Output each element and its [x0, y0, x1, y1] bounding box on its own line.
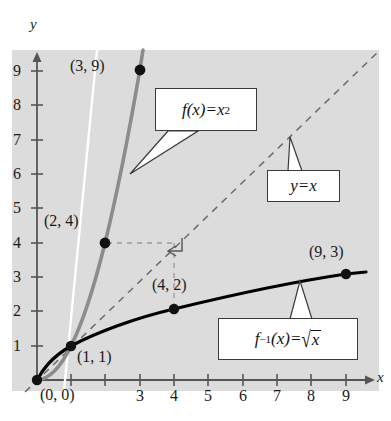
point-1-1: [66, 341, 76, 351]
callout-identity-line: y = x: [267, 170, 340, 202]
point-9-3: [341, 269, 351, 279]
x-tick-9: 9: [339, 387, 353, 405]
callout-identity-rhs: x: [309, 176, 317, 196]
reflection-right-angle-marker: [168, 238, 182, 256]
callout-identity-equals: =: [298, 176, 309, 196]
leader-inverse: [290, 281, 312, 319]
x-tick-6: 6: [236, 387, 250, 405]
x-axis-arrow: [365, 376, 375, 385]
label-2-4: (2, 4): [44, 212, 79, 230]
x-tick-4: 4: [167, 387, 181, 405]
label-1-1: (1, 1): [77, 348, 112, 366]
y-tick-4: 4: [10, 234, 24, 252]
y-tick-1: 1: [10, 337, 24, 355]
figure-graph-inverse-function: y x 1 2 3 4 5 6 7 8 9 3 4 5 6 7 8 9 (3, …: [0, 0, 391, 421]
callout-function-definition: f(x) = x2: [155, 88, 257, 131]
point-0-0: [32, 375, 42, 385]
y-tick-7: 7: [10, 131, 24, 149]
callout-inverse-arg: (x): [271, 329, 290, 349]
callout-identity-lhs: y: [290, 176, 298, 196]
y-tick-2: 2: [10, 302, 24, 320]
radical-sign: √: [301, 327, 310, 354]
y-axis-title: y: [30, 16, 37, 33]
y-tick-6: 6: [10, 165, 24, 183]
y-tick-8: 8: [10, 96, 24, 114]
label-0-0: (0, 0): [40, 386, 75, 404]
callout-function-lhs: f(x): [182, 100, 206, 120]
y-axis-arrow: [33, 52, 42, 62]
label-4-2: (4, 2): [152, 276, 187, 294]
y-tick-3: 3: [10, 268, 24, 286]
callout-inverse-function: f−1(x) = √x: [218, 318, 358, 360]
x-tick-7: 7: [270, 387, 284, 405]
x-tick-8: 8: [304, 387, 318, 405]
callout-function-exponent: 2: [225, 104, 231, 116]
point-2-4: [100, 238, 111, 249]
x-tick-3: 3: [133, 387, 147, 405]
y-tick-5: 5: [10, 199, 24, 217]
callout-inverse-radicand: x: [311, 330, 322, 349]
callout-function-equals: =: [206, 100, 217, 120]
x-tick-5: 5: [201, 387, 215, 405]
y-tick-9: 9: [10, 62, 24, 80]
x-axis-title: x: [377, 369, 384, 386]
callout-function-base: x: [217, 100, 225, 120]
point-4-2: [169, 304, 179, 314]
label-9-3: (9, 3): [309, 243, 344, 261]
point-3-9: [135, 65, 146, 76]
leader-function: [130, 131, 198, 174]
leader-identity: [288, 137, 302, 171]
callout-inverse-exponent: −1: [259, 333, 271, 345]
label-3-9: (3, 9): [70, 57, 105, 75]
callout-inverse-equals: =: [290, 329, 301, 349]
